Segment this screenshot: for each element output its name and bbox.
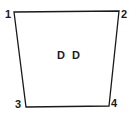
vertex-label-1: 1 [5, 9, 11, 20]
vertex-label-2: 2 [121, 9, 127, 20]
center-label: D D [57, 50, 82, 61]
vertex-label-4: 4 [111, 98, 117, 109]
vertex-label-3: 3 [15, 99, 21, 110]
